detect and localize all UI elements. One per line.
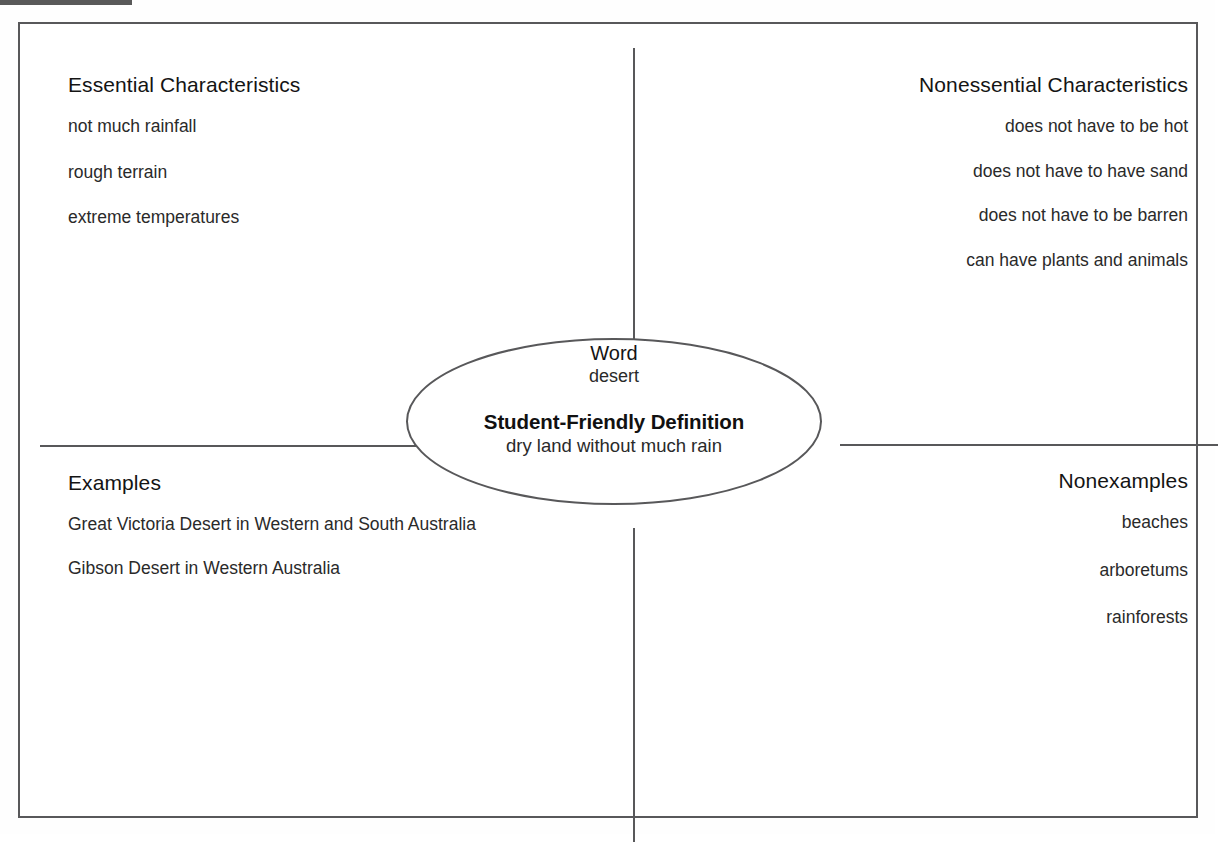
quadrant-nonexamples: Nonexamples beaches arboretums rainfores… <box>638 448 1216 840</box>
vertical-divider-bottom <box>633 528 635 842</box>
list-item: not much rainfall <box>68 115 488 139</box>
list-item: does not have to be barren <box>664 204 1188 228</box>
quadrant-title-nonessential: Nonessential Characteristics <box>664 72 1188 97</box>
list-item: can have plants and animals <box>664 249 1188 273</box>
list-item: rainforests <box>664 606 1188 630</box>
list-item: Great Victoria Desert in Western and Sou… <box>68 513 488 537</box>
horizontal-divider-right <box>840 444 1218 446</box>
list-item: Gibson Desert in Western Australia <box>68 557 488 581</box>
list-item: rough terrain <box>68 161 488 185</box>
list-item: arboretums <box>664 559 1188 583</box>
horizontal-divider-left <box>40 445 428 447</box>
list-item: extreme temperatures <box>68 206 488 230</box>
list-item: beaches <box>664 511 1188 535</box>
vertical-divider-top <box>633 48 635 362</box>
quadrant-examples: Examples Great Victoria Desert in Wester… <box>42 450 630 840</box>
ellipse-outline-icon <box>405 337 823 506</box>
center-ellipse: Word desert Student-Friendly Definition … <box>405 337 823 506</box>
quadrant-title-essential: Essential Characteristics <box>68 72 604 97</box>
scan-artifact-bar <box>0 0 132 5</box>
list-item: does not have to have sand <box>664 160 1188 184</box>
list-item: does not have to be hot <box>664 115 1188 139</box>
